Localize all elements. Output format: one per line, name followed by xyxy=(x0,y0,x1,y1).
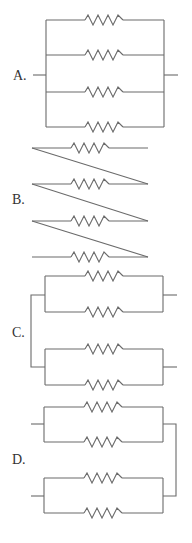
option-d-label: D. xyxy=(12,452,26,467)
resistor-icon xyxy=(85,15,123,25)
resistor-icon xyxy=(84,473,122,483)
resistor-icon xyxy=(71,179,109,189)
resistor-icon xyxy=(71,216,109,226)
option-d-circuit: D. xyxy=(12,402,176,518)
option-b-label: B. xyxy=(12,192,25,207)
resistor-icon xyxy=(85,344,123,354)
option-c-label: C. xyxy=(12,325,25,340)
diagonal-wire xyxy=(32,221,148,257)
resistor-icon xyxy=(84,437,122,447)
row-1 xyxy=(32,143,148,153)
branch-3 xyxy=(46,87,164,97)
resistor-icon xyxy=(71,252,109,262)
parallel-pair-1 xyxy=(31,402,163,447)
resistor-icon xyxy=(84,402,122,412)
option-b-circuit: B. xyxy=(12,143,148,262)
branch-4 xyxy=(46,122,164,132)
row-3 xyxy=(32,216,148,226)
row-4 xyxy=(32,252,148,262)
option-a-circuit: A. xyxy=(13,15,178,132)
diagonal-wire xyxy=(32,148,148,184)
resistor-icon xyxy=(85,122,123,132)
right-bracket-wire xyxy=(163,424,176,496)
resistor-icon xyxy=(71,143,109,153)
resistor-icon xyxy=(84,508,122,518)
row-2 xyxy=(32,179,148,189)
resistor-icon xyxy=(85,87,123,97)
option-a-label: A. xyxy=(13,68,27,83)
diagonal-wire xyxy=(32,184,148,221)
resistor-icon xyxy=(85,50,123,60)
resistor-icon xyxy=(85,271,123,281)
option-c-circuit: C. xyxy=(12,271,177,390)
parallel-pair-2 xyxy=(31,473,163,518)
parallel-pair-2 xyxy=(45,344,177,390)
circuit-diagrams: A. B. xyxy=(0,0,192,543)
parallel-pair-1 xyxy=(45,271,177,317)
branch-2 xyxy=(46,50,164,60)
resistor-icon xyxy=(85,380,123,390)
left-bracket-wire xyxy=(31,295,45,367)
resistor-icon xyxy=(85,307,123,317)
branch-1 xyxy=(46,15,164,25)
